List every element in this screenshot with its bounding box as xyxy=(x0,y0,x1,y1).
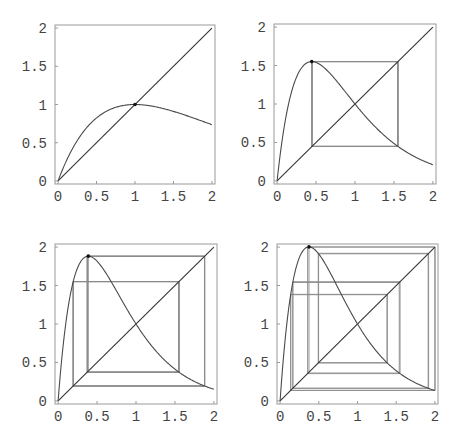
cobweb-figure: 000.50.5111.51.522 000.50.5111.51.522 00… xyxy=(0,0,456,442)
x-tick-label: 1.5 xyxy=(384,409,409,425)
x-tick-label: 1 xyxy=(353,409,361,425)
y-tick-label: 1.5 xyxy=(22,59,47,75)
y-tick-label: 1 xyxy=(39,98,47,114)
panel-top-right: 000.50.5111.51.522 xyxy=(241,20,437,205)
y-tick-label: 0.5 xyxy=(244,355,269,371)
x-tick-label: 1 xyxy=(351,189,359,205)
x-tick-label: 0 xyxy=(54,409,62,425)
y-tick-label: 0 xyxy=(39,174,47,190)
y-tick-label: 2 xyxy=(258,20,266,36)
peak-point-marker xyxy=(310,60,314,64)
map-curve xyxy=(277,62,433,181)
y-tick-label: 1.5 xyxy=(244,279,269,295)
x-tick-label: 1.5 xyxy=(162,409,187,425)
y-tick-label: 0.5 xyxy=(22,355,47,371)
panel-top-left: 000.50.5111.51.522 xyxy=(22,21,216,205)
x-tick-label: 0.5 xyxy=(303,189,328,205)
x-tick-label: 1.5 xyxy=(381,189,406,205)
x-tick-label: 0.5 xyxy=(306,409,331,425)
x-tick-label: 0 xyxy=(273,189,281,205)
x-tick-label: 0.5 xyxy=(84,409,109,425)
y-tick-label: 1.5 xyxy=(241,59,266,75)
y-tick-label: 2 xyxy=(39,240,47,256)
y-tick-label: 2 xyxy=(261,240,269,256)
panel-bottom-right: 000.50.5111.51.522 xyxy=(244,240,439,425)
x-tick-label: 2 xyxy=(429,189,437,205)
peak-point-marker xyxy=(87,254,91,258)
peak-point-marker xyxy=(307,245,311,249)
x-tick-label: 0.5 xyxy=(84,189,109,205)
y-tick-label: 1 xyxy=(39,317,47,333)
x-tick-label: 2 xyxy=(431,409,439,425)
y-tick-label: 0 xyxy=(39,394,47,410)
y-tick-label: 2 xyxy=(39,21,47,37)
x-tick-label: 0 xyxy=(276,409,284,425)
y-tick-label: 0 xyxy=(261,394,269,410)
map-curve xyxy=(58,105,212,181)
y-tick-label: 1 xyxy=(258,97,266,113)
panel-bottom-left: 000.50.5111.51.522 xyxy=(22,240,218,425)
y-tick-label: 1 xyxy=(261,317,269,333)
y-tick-label: 0 xyxy=(258,174,266,190)
x-tick-label: 2 xyxy=(208,189,216,205)
peak-point-marker xyxy=(133,103,137,107)
x-tick-label: 1 xyxy=(132,409,140,425)
y-tick-label: 0.5 xyxy=(241,135,266,151)
y-tick-label: 0.5 xyxy=(22,136,47,152)
x-tick-label: 2 xyxy=(210,409,218,425)
map-curve xyxy=(58,256,214,401)
x-tick-label: 1 xyxy=(131,189,139,205)
x-tick-label: 0 xyxy=(54,189,62,205)
y-tick-label: 1.5 xyxy=(22,279,47,295)
x-tick-label: 1.5 xyxy=(161,189,186,205)
